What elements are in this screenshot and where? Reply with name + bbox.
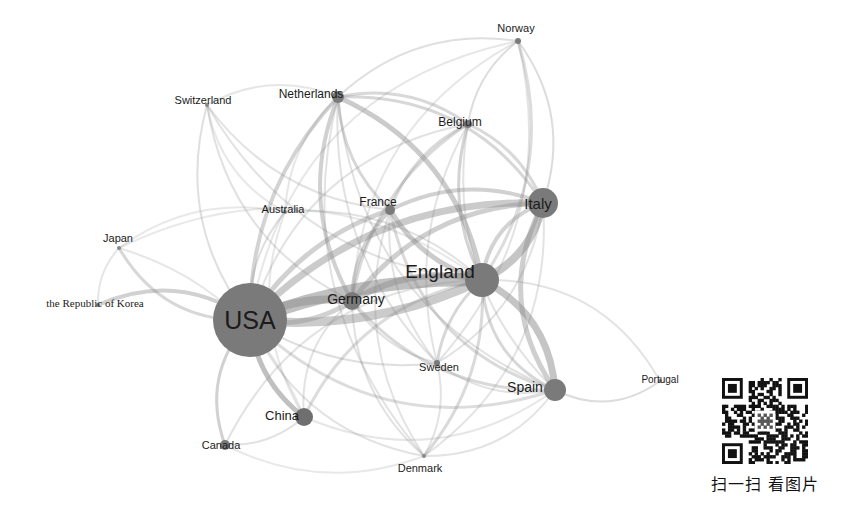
graph-node-italy[interactable]	[528, 188, 558, 218]
network-graph-canvas: USAEnglandItalySpainGermanyChinaFranceNe…	[0, 0, 842, 505]
graph-node-sweden[interactable]	[434, 360, 440, 366]
graph-node-canada[interactable]	[220, 440, 230, 450]
graph-edge	[424, 363, 441, 456]
graph-edge	[207, 105, 390, 210]
graph-node-australia[interactable]	[283, 210, 287, 214]
graph-node-france[interactable]	[385, 205, 395, 215]
graph-node-korea[interactable]	[96, 303, 100, 307]
edges-layer	[98, 38, 660, 472]
graph-edge	[437, 363, 555, 393]
graph-node-usa[interactable]	[213, 283, 287, 357]
graph-edge	[468, 41, 518, 124]
graph-edge	[207, 85, 338, 105]
graph-node-china[interactable]	[295, 408, 313, 426]
graph-edge	[555, 381, 660, 402]
graph-node-england[interactable]	[465, 263, 499, 297]
graph-node-netherlands[interactable]	[332, 91, 344, 103]
graph-edge	[352, 301, 424, 456]
qr-code-image[interactable]	[722, 378, 808, 464]
graph-node-japan[interactable]	[117, 246, 121, 250]
graph-node-norway[interactable]	[515, 38, 521, 44]
qr-code-block[interactable]: 扫一扫 看图片	[711, 378, 819, 495]
graph-node-spain[interactable]	[544, 379, 566, 401]
graph-node-denmark[interactable]	[422, 454, 426, 458]
graph-node-portugal[interactable]	[658, 379, 662, 383]
graph-node-switzerland[interactable]	[205, 103, 209, 107]
graph-node-germany[interactable]	[343, 292, 361, 310]
qr-code-caption: 扫一扫 看图片	[711, 471, 819, 495]
graph-edge	[304, 390, 555, 440]
graph-node-belgium[interactable]	[464, 120, 472, 128]
graph-edge	[424, 390, 555, 456]
